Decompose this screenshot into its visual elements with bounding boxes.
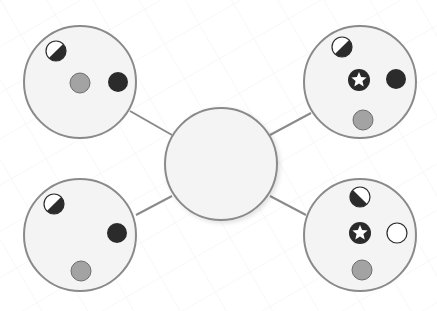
black-dot-icon	[386, 69, 406, 89]
star-badge-icon	[349, 222, 371, 244]
center-node[interactable]	[165, 108, 277, 220]
black-dot-icon	[107, 223, 127, 243]
half-filled-dot-icon	[44, 194, 64, 214]
gray-dot-icon	[353, 110, 373, 130]
half-filled-dot-icon	[332, 37, 352, 57]
half-filled-dot-icon	[350, 187, 370, 207]
node-bottom-right[interactable]	[304, 179, 416, 291]
gray-dot-icon	[70, 73, 90, 93]
diagram-canvas	[0, 0, 437, 311]
node-bottom-left[interactable]	[24, 179, 136, 291]
half-filled-dot-icon	[46, 41, 66, 61]
gray-dot-icon	[71, 261, 91, 281]
black-dot-icon	[108, 72, 128, 92]
hub-and-spoke-diagram	[0, 0, 437, 311]
star-badge-icon	[348, 69, 370, 91]
gray-dot-icon	[352, 260, 372, 280]
node-top-right[interactable]	[304, 26, 416, 138]
node-top-left[interactable]	[24, 26, 136, 138]
white-dot-icon	[387, 223, 407, 243]
